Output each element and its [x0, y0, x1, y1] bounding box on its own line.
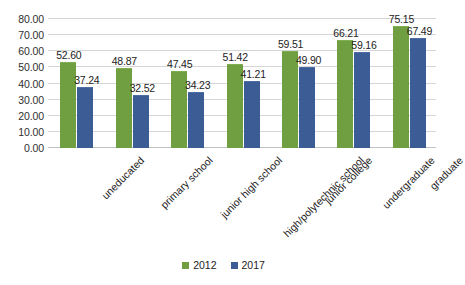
y-axis-tick-label: 70.00 — [0, 30, 44, 40]
y-axis-tick-label: 10.00 — [0, 127, 44, 137]
bar-2017 — [410, 38, 426, 148]
bar-group: 47.4534.23 — [171, 19, 204, 148]
bar-2017 — [354, 52, 370, 148]
legend-item[interactable]: 2017 — [231, 260, 265, 271]
bar-value-label: 41.21 — [241, 69, 266, 80]
y-axis-tick-label: 50.00 — [0, 62, 44, 72]
y-axis-tick-label: 60.00 — [0, 46, 44, 56]
bar-2017 — [133, 95, 149, 148]
bar-value-label: 48.87 — [112, 56, 137, 67]
legend-label: 2012 — [193, 260, 216, 271]
bar-group: 48.8732.52 — [116, 19, 149, 148]
legend-item[interactable]: 2012 — [182, 260, 216, 271]
y-axis-tick-label: 30.00 — [0, 95, 44, 105]
bar-2012 — [337, 40, 353, 148]
x-axis-category-labels: uneducatedprimary schooljunior high scho… — [48, 148, 436, 243]
y-axis-tick-label: 40.00 — [0, 79, 44, 89]
y-axis: 0.0010.0020.0030.0040.0050.0060.0070.008… — [0, 19, 44, 148]
bar-2012 — [116, 68, 132, 148]
bar-2012 — [393, 26, 409, 148]
bar-value-label: 37.24 — [74, 75, 99, 86]
bar-2017 — [77, 87, 93, 148]
bar-value-label: 67.49 — [407, 26, 432, 37]
legend-swatch-icon — [231, 262, 238, 269]
bar-group: 59.5149.90 — [282, 19, 315, 148]
bar-2017 — [244, 81, 260, 148]
bar-value-label: 59.51 — [278, 39, 303, 50]
bar-2017 — [188, 92, 204, 148]
bar-value-label: 59.16 — [351, 40, 376, 51]
plot-area: 52.6037.2448.8732.5247.4534.2351.4241.21… — [48, 19, 436, 148]
chart-legend: 20122017 — [0, 260, 447, 271]
y-axis-tick-label: 20.00 — [0, 111, 44, 121]
y-axis-tick-label: 80.00 — [0, 14, 44, 24]
bar-value-label: 52.60 — [56, 50, 81, 61]
bar-value-label: 75.15 — [389, 14, 414, 25]
bar-2017 — [299, 67, 315, 148]
x-axis-label: uneducated — [99, 154, 146, 201]
bar-2012 — [282, 51, 298, 148]
bar-group: 66.2159.16 — [337, 19, 370, 148]
bar-value-label: 47.45 — [167, 59, 192, 70]
legend-swatch-icon — [182, 262, 189, 269]
x-axis-label: junior high school — [217, 154, 283, 220]
y-axis-tick-label: 0.00 — [0, 143, 44, 153]
bar-group: 52.6037.24 — [60, 19, 93, 148]
bar-value-label: 51.42 — [223, 52, 248, 63]
x-axis-label: primary school — [158, 154, 215, 211]
bar-value-label: 34.23 — [185, 80, 210, 91]
bar-group: 51.4241.21 — [227, 19, 260, 148]
bar-group: 75.1567.49 — [393, 19, 426, 148]
bar-value-label: 32.52 — [130, 83, 155, 94]
legend-label: 2017 — [242, 260, 265, 271]
bar-value-label: 66.21 — [333, 28, 358, 39]
bar-value-label: 49.90 — [296, 55, 321, 66]
